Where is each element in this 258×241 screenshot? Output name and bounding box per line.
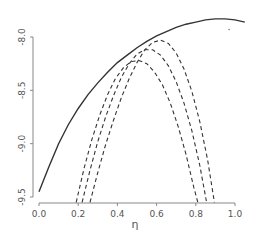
series-line-solid [39, 19, 245, 192]
y-tick-label: -8.0 [17, 28, 27, 46]
x-tick-label: 0.2 [71, 209, 85, 219]
chart: 0.00.20.40.60.81.0-8.0-8.5-9.0-9.5 η [0, 0, 258, 241]
x-axis-label: η [132, 218, 139, 231]
y-tick-label: -9.0 [17, 135, 27, 153]
series-line-dashed-3 [90, 40, 214, 202]
y-tick-label: -9.5 [17, 188, 27, 206]
series-group [39, 19, 245, 202]
x-tick-label: 0.8 [189, 209, 204, 219]
annotation-point [228, 29, 230, 31]
x-tick-label: 1.0 [228, 209, 243, 219]
x-tick-label: 0.0 [32, 209, 47, 219]
y-tick-label: -8.5 [17, 82, 27, 100]
x-tick-label: 0.4 [110, 209, 125, 219]
series-line-dashed-2 [82, 50, 207, 203]
axes: 0.00.20.40.60.81.0-8.0-8.5-9.0-9.5 [17, 28, 242, 219]
series-line-dashed-1 [76, 61, 198, 203]
x-tick-label: 0.6 [149, 209, 164, 219]
